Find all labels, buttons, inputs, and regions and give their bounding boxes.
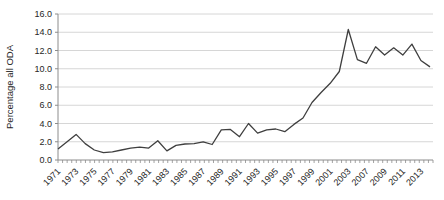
x-axis-tick-label: 2011 — [386, 166, 407, 187]
x-axis-tick-label: 2001 — [313, 166, 334, 187]
x-axis-tick-label: 1991 — [223, 166, 244, 187]
x-axis-tick-label: 1973 — [59, 166, 80, 187]
y-axis-tick-label: 10.0 — [34, 64, 52, 74]
x-axis-tick-label: 2007 — [350, 166, 371, 187]
y-axis-tick-label: 8.0 — [39, 82, 52, 92]
y-axis-tick-label: 4.0 — [39, 119, 52, 129]
x-axis-tick-label: 1987 — [186, 166, 207, 187]
x-axis-tick-label: 1995 — [259, 166, 280, 187]
x-axis-tick-label: 1997 — [277, 166, 298, 187]
x-axis-tick-label: 1993 — [241, 166, 262, 187]
x-axis-tick-label: 1975 — [77, 166, 98, 187]
y-axis-title: Percentage all ODA — [4, 7, 18, 167]
y-axis-tick-label: 0.0 — [39, 155, 52, 165]
x-axis-tick-label: 2009 — [368, 166, 389, 187]
x-axis-tick-label: 1971 — [41, 166, 62, 187]
y-axis-tick-label: 16.0 — [34, 9, 52, 19]
x-axis-tick-label: 1977 — [96, 166, 117, 187]
x-axis-tick-label: 1985 — [168, 166, 189, 187]
line-chart-figure: Percentage all ODA 0.02.04.06.08.010.012… — [0, 0, 444, 200]
y-axis-tick-label: 6.0 — [39, 100, 52, 110]
x-axis-tick-label: 2013 — [404, 166, 425, 187]
chart-plot-area: 0.02.04.06.08.010.012.014.016.0197119731… — [0, 0, 444, 200]
x-axis-tick-label: 1983 — [150, 166, 171, 187]
data-series-line — [58, 30, 430, 153]
y-axis-tick-label: 12.0 — [34, 46, 52, 56]
x-axis-tick-label: 1981 — [132, 166, 153, 187]
y-axis-tick-label: 14.0 — [34, 27, 52, 37]
x-axis-tick-label: 1989 — [204, 166, 225, 187]
x-axis-tick-label: 1979 — [114, 166, 135, 187]
x-axis-tick-label: 2003 — [332, 166, 353, 187]
x-axis-tick-label: 1999 — [295, 166, 316, 187]
y-axis-tick-label: 2.0 — [39, 137, 52, 147]
